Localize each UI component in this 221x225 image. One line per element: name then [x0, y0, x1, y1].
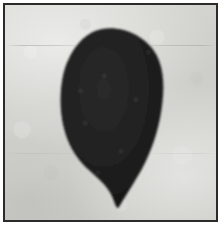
- plate-frame-border: [3, 3, 218, 222]
- specimen-region: [5, 5, 216, 220]
- specimen-silhouette: [5, 5, 216, 220]
- photograph-plate: [0, 0, 221, 225]
